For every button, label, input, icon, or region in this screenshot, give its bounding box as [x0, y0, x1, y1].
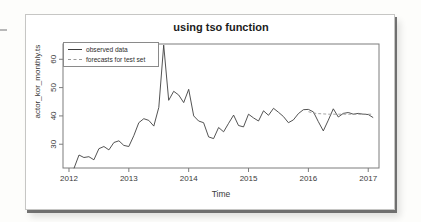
solid-line-swatch — [68, 49, 82, 50]
y-axis-tick-label: 30 — [50, 139, 59, 148]
dashed-line-swatch — [68, 59, 82, 60]
y-axis-label: actor_kor_monthly.ts — [33, 103, 42, 119]
photo-background: using tso function 201220132014201520162… — [0, 0, 421, 222]
x-axis-label: Time — [63, 189, 379, 199]
plot-card: using tso function 201220132014201520162… — [25, 14, 395, 210]
x-axis-tick-label: 2012 — [60, 174, 78, 183]
photo-edge-artifact — [0, 29, 7, 31]
legend-label-observed: observed data — [86, 46, 128, 53]
x-axis-tick-label: 2015 — [240, 174, 258, 183]
y-axis-tick-label: 40 — [50, 111, 59, 120]
x-axis-tick-label: 2014 — [180, 174, 198, 183]
legend-item-observed: observed data — [68, 46, 155, 53]
legend: observed data forecasts for test set — [63, 42, 159, 67]
legend-item-forecast: forecasts for test set — [68, 56, 155, 63]
legend-label-forecast: forecasts for test set — [86, 56, 145, 63]
y-axis-tick-label: 50 — [50, 83, 59, 92]
x-axis-tick-label: 2016 — [299, 174, 317, 183]
x-axis-tick-label: 2013 — [120, 174, 138, 183]
forecast-line — [308, 112, 373, 115]
x-axis-tick-label: 2017 — [359, 174, 377, 183]
y-axis-tick-label: 60 — [50, 54, 59, 63]
